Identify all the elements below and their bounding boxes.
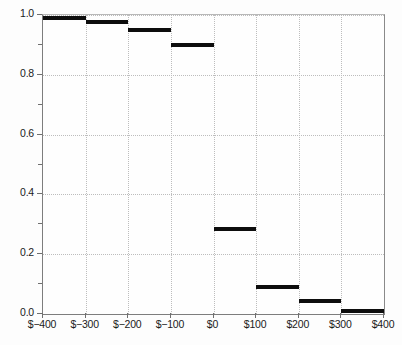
gridline-horizontal	[43, 75, 384, 76]
y-axis-tick-minor	[38, 223, 42, 224]
y-axis-tick-major	[37, 74, 42, 75]
y-axis-tick-minor	[38, 44, 42, 45]
chart-figure: $−400$−300$−200$−100$0$100$200$300$400 0…	[0, 0, 402, 345]
step-bar	[43, 16, 86, 20]
gridline-vertical	[86, 15, 87, 314]
y-axis-tick-major	[37, 14, 42, 15]
y-axis-tick-minor	[38, 283, 42, 284]
step-bar	[256, 285, 299, 289]
x-axis-tick-label: $400	[353, 318, 402, 330]
y-axis-tick-major	[37, 193, 42, 194]
gridline-vertical	[214, 15, 215, 314]
step-bar	[214, 227, 257, 231]
step-bar	[171, 43, 214, 47]
y-axis-tick-label: 0.0	[0, 306, 34, 318]
y-axis-tick-minor	[38, 164, 42, 165]
y-axis-tick-minor	[38, 104, 42, 105]
gridline-vertical	[299, 15, 300, 314]
y-axis-tick-major	[37, 313, 42, 314]
gridline-vertical	[171, 15, 172, 314]
y-axis-tick-label: 0.6	[0, 127, 34, 139]
gridline-vertical	[128, 15, 129, 314]
y-axis-tick-major	[37, 253, 42, 254]
gridline-horizontal	[43, 254, 384, 255]
step-bar	[341, 309, 384, 313]
y-axis-tick-major	[37, 134, 42, 135]
gridline-horizontal	[43, 135, 384, 136]
y-axis-tick-label: 0.8	[0, 67, 34, 79]
plot-area	[42, 14, 385, 315]
step-bar	[128, 28, 171, 32]
gridline-horizontal	[43, 194, 384, 195]
y-axis-tick-label: 0.4	[0, 186, 34, 198]
gridline-vertical	[341, 15, 342, 314]
caption-remnant	[60, 336, 390, 345]
y-axis-tick-label: 1.0	[0, 7, 34, 19]
step-bar	[86, 20, 129, 24]
gridline-horizontal	[43, 15, 384, 16]
y-axis-tick-label: 0.2	[0, 246, 34, 258]
gridline-vertical	[256, 15, 257, 314]
step-bar	[299, 299, 342, 303]
